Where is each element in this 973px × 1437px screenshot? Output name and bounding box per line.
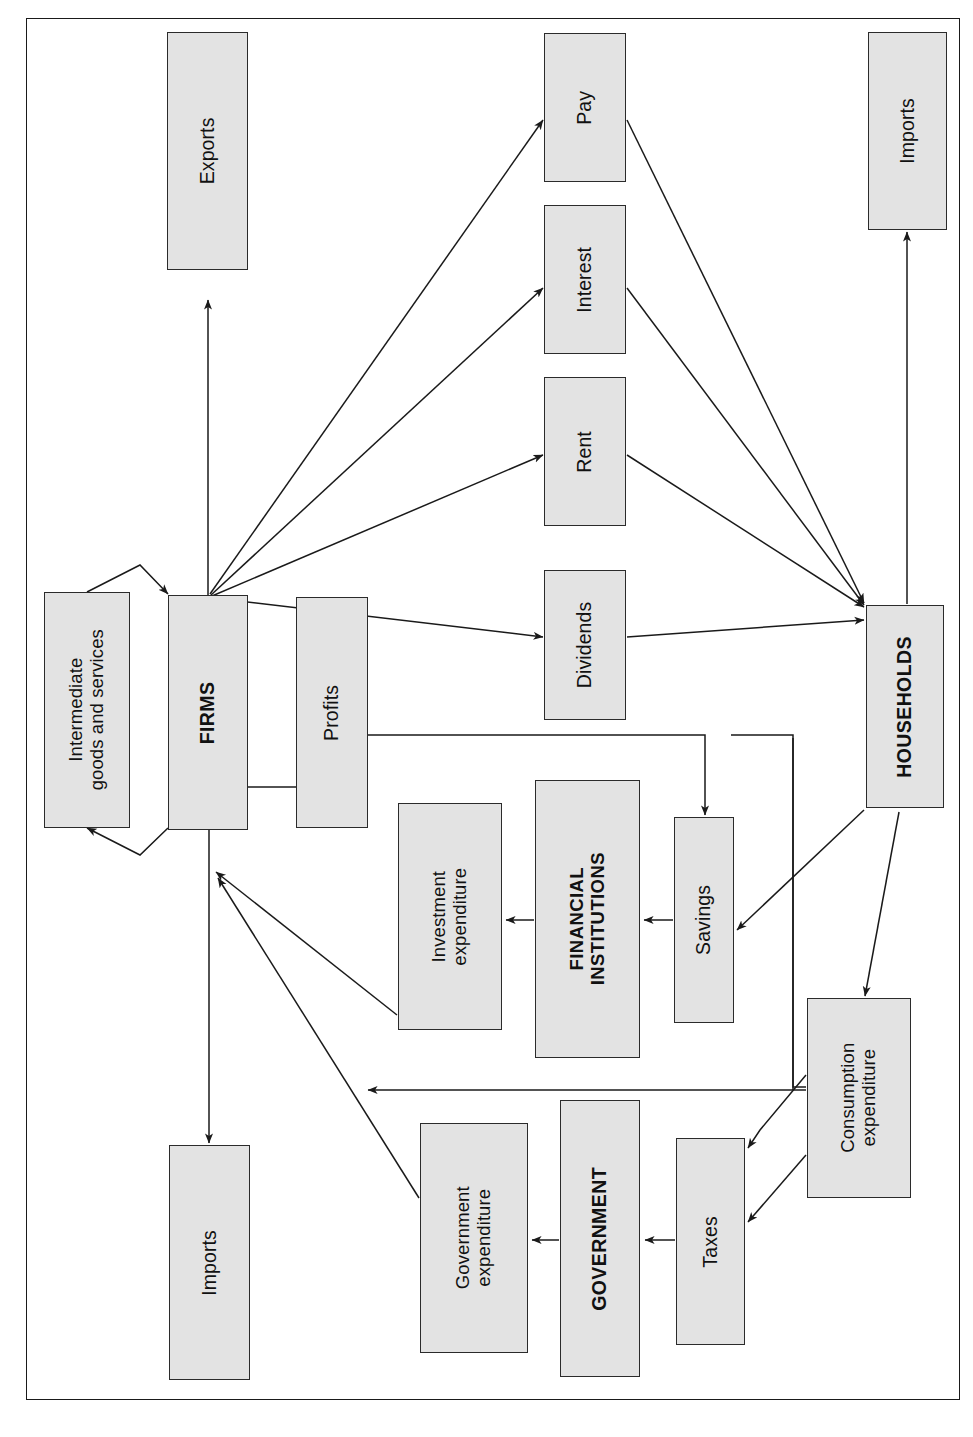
node-label-imports-top: Imports: [897, 92, 919, 169]
node-government[interactable]: GOVERNMENT: [560, 1100, 640, 1377]
node-label-households: HOUSEHOLDS: [894, 636, 916, 778]
node-taxes[interactable]: Taxes: [676, 1138, 745, 1345]
node-households[interactable]: HOUSEHOLDS: [866, 605, 944, 808]
node-imports-bottom[interactable]: Imports: [169, 1145, 250, 1380]
node-profits[interactable]: Profits: [296, 597, 368, 828]
edge-firms-intermediate-out: [87, 828, 168, 855]
node-imports-top[interactable]: Imports: [868, 32, 947, 230]
node-pay[interactable]: Pay: [544, 33, 626, 182]
node-label-exports: Exports: [197, 111, 219, 190]
node-label-firms: FIRMS: [197, 673, 219, 751]
node-savings[interactable]: Savings: [674, 817, 734, 1023]
node-label-interest: Interest: [574, 239, 596, 319]
node-interest[interactable]: Interest: [544, 205, 626, 354]
node-financial[interactable]: FINANCIAL INSTITUTIONS: [535, 780, 640, 1058]
node-label-savings: Savings: [693, 885, 715, 955]
node-dividends[interactable]: Dividends: [544, 570, 626, 720]
node-intermediate[interactable]: Intermediate goods and services: [44, 592, 130, 828]
node-label-investment: Investment expenditure: [429, 866, 470, 968]
edge-investment-to-firms: [216, 872, 397, 1015]
node-rent[interactable]: Rent: [544, 377, 626, 526]
edge-firms-to-dividends: [213, 598, 543, 637]
edge-intermediate-to-firms: [87, 565, 168, 594]
edge-dividends-to-households: [627, 620, 864, 637]
node-govexp[interactable]: Government expenditure: [420, 1123, 528, 1353]
diagram-page: Exports Pay Imports Interest Rent Divide…: [0, 0, 973, 1437]
node-label-imports-bottom: Imports: [199, 1223, 221, 1302]
node-firms[interactable]: FIRMS: [168, 595, 248, 830]
edge-interest-to-households: [627, 288, 864, 605]
edge-consumption-to-taxes: [748, 1155, 806, 1222]
edge-firms-to-interest: [211, 288, 543, 595]
edge-households-to-consumption: [865, 812, 899, 996]
edge-firms-to-pay: [210, 120, 543, 594]
node-label-financial: FINANCIAL INSTITUTIONS: [567, 852, 608, 985]
edge-consumption-to-firms: [731, 735, 806, 1087]
node-label-government: GOVERNMENT: [589, 1167, 611, 1311]
node-label-intermediate: Intermediate goods and services: [66, 629, 107, 790]
edge-firms-to-rent: [212, 455, 543, 596]
node-label-profits: Profits: [321, 677, 343, 747]
node-label-rent: Rent: [574, 411, 596, 491]
node-label-dividends: Dividends: [574, 602, 596, 689]
node-label-govexp: Government expenditure: [453, 1185, 494, 1291]
node-investment[interactable]: Investment expenditure: [398, 803, 502, 1030]
node-label-consumption: Consumption expenditure: [838, 1043, 879, 1153]
edge-households-to-savings: [737, 810, 864, 930]
node-label-taxes: Taxes: [700, 1208, 722, 1275]
node-label-pay: Pay: [574, 67, 596, 147]
edge-households-to-taxes: [748, 1075, 806, 1148]
node-consumption[interactable]: Consumption expenditure: [807, 998, 911, 1198]
node-exports[interactable]: Exports: [167, 32, 248, 270]
